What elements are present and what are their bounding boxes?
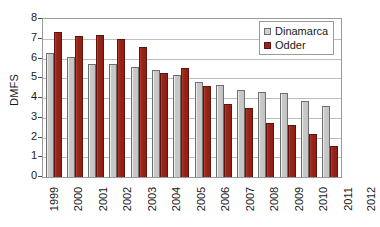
bar-odder-2004 bbox=[160, 73, 168, 177]
x-axis-tick-label: 2006 bbox=[220, 187, 232, 211]
x-axis-tick: 2003 bbox=[140, 179, 164, 227]
y-axis-tick-label: 1 bbox=[15, 149, 37, 161]
y-axis-tick-label: 8 bbox=[15, 11, 37, 23]
y-axis-tick-mark bbox=[38, 137, 42, 138]
bar-odder-2012 bbox=[330, 146, 338, 177]
x-axis-tick: 2000 bbox=[66, 179, 90, 227]
y-axis-tick-mark bbox=[38, 18, 42, 19]
bar-odder-2007 bbox=[224, 104, 232, 177]
bar-group bbox=[149, 19, 170, 177]
bar-odder-2002 bbox=[117, 39, 125, 177]
bar-odder-2010 bbox=[288, 125, 296, 177]
bar-odder-2011 bbox=[309, 134, 317, 177]
bar-dinamarca-2004 bbox=[152, 70, 160, 177]
y-axis-tick-mark bbox=[38, 38, 42, 39]
x-axis-tick: 2008 bbox=[262, 179, 286, 227]
y-axis-tick-mark bbox=[38, 58, 42, 59]
x-axis-tick: 2006 bbox=[213, 179, 237, 227]
x-axis-tick: 2002 bbox=[115, 179, 139, 227]
x-axis-tick-label: 2010 bbox=[318, 187, 330, 211]
bar-dinamarca-1999 bbox=[46, 53, 54, 177]
legend-label: Odder bbox=[275, 39, 306, 51]
x-axis-tick: 2001 bbox=[91, 179, 115, 227]
x-axis-tick-label: 2008 bbox=[269, 187, 281, 211]
bar-group bbox=[171, 19, 192, 177]
x-axis-tick-label: 2003 bbox=[146, 187, 158, 211]
x-axis-tick-label: 2000 bbox=[73, 187, 85, 211]
y-axis-tick-label: 5 bbox=[15, 70, 37, 82]
bar-odder-2000 bbox=[75, 36, 83, 177]
bar-odder-1999 bbox=[54, 32, 62, 177]
x-axis-tick-label: 2001 bbox=[97, 187, 109, 211]
legend-swatch-odder bbox=[264, 42, 271, 49]
x-axis-tick: 1999 bbox=[42, 179, 66, 227]
y-axis-tick-mark bbox=[38, 117, 42, 118]
y-axis-tick-label: 6 bbox=[15, 51, 37, 63]
bar-group bbox=[235, 19, 256, 177]
y-axis-tick-label: 7 bbox=[15, 31, 37, 43]
x-axis-tick-label: 2002 bbox=[122, 187, 134, 211]
bar-dinamarca-2001 bbox=[88, 64, 96, 177]
x-axis-tick-label: 2012 bbox=[366, 187, 378, 211]
y-axis-tick-mark bbox=[38, 77, 42, 78]
x-axis-tick-label: 2007 bbox=[244, 187, 256, 211]
bar-dinamarca-2002 bbox=[109, 64, 117, 177]
bar-dinamarca-2008 bbox=[237, 90, 245, 177]
y-axis-tick-mark bbox=[38, 176, 42, 177]
x-axis-tick: 2007 bbox=[238, 179, 262, 227]
bar-group bbox=[213, 19, 234, 177]
legend-item-odder: Odder bbox=[264, 39, 328, 51]
bar-odder-2003 bbox=[139, 47, 147, 177]
y-axis-tick-label: 4 bbox=[15, 90, 37, 102]
bar-dinamarca-2009 bbox=[258, 92, 266, 177]
legend-item-dinamarca: Dinamarca bbox=[264, 25, 328, 37]
y-axis-tick-mark bbox=[38, 156, 42, 157]
x-axis-tick-label: 2005 bbox=[195, 187, 207, 211]
bar-group bbox=[107, 19, 128, 177]
bar-group bbox=[64, 19, 85, 177]
x-axis-tick: 2010 bbox=[311, 179, 335, 227]
x-axis-tick-label: 2004 bbox=[171, 187, 183, 211]
bar-odder-2008 bbox=[245, 108, 253, 177]
x-axis-tick: 2004 bbox=[164, 179, 188, 227]
bar-odder-2006 bbox=[203, 86, 211, 177]
bar-dinamarca-2011 bbox=[301, 101, 309, 177]
y-axis-tick-label: 0 bbox=[15, 169, 37, 181]
y-axis-tick-mark bbox=[38, 97, 42, 98]
x-axis-tick: 2011 bbox=[336, 179, 360, 227]
x-axis-tick: 2009 bbox=[287, 179, 311, 227]
bar-dinamarca-2005 bbox=[173, 75, 181, 177]
bar-dinamarca-2006 bbox=[195, 82, 203, 177]
bar-odder-2009 bbox=[266, 123, 274, 177]
legend: DinamarcaOdder bbox=[259, 21, 334, 55]
bar-odder-2005 bbox=[181, 68, 189, 177]
bar-dinamarca-2000 bbox=[67, 57, 75, 177]
y-axis-tick-label: 2 bbox=[15, 130, 37, 142]
bar-group bbox=[43, 19, 64, 177]
bar-dinamarca-2012 bbox=[322, 106, 330, 177]
legend-label: Dinamarca bbox=[275, 25, 328, 37]
bar-group bbox=[192, 19, 213, 177]
bar-group bbox=[86, 19, 107, 177]
bar-group bbox=[128, 19, 149, 177]
x-axis-tick-label: 2009 bbox=[293, 187, 305, 211]
x-axis-tick-label: 2011 bbox=[342, 187, 354, 211]
bar-odder-2001 bbox=[96, 35, 104, 177]
x-axis-tick-label: 1999 bbox=[48, 187, 60, 211]
y-axis-tick-label: 3 bbox=[15, 110, 37, 122]
x-axis-tick: 2005 bbox=[189, 179, 213, 227]
x-axis: 1999200020012002200320042005200620072008… bbox=[42, 179, 342, 227]
legend-swatch-dinamarca bbox=[264, 28, 271, 35]
bar-dinamarca-2003 bbox=[131, 67, 139, 177]
bar-dinamarca-2010 bbox=[280, 93, 288, 177]
x-axis-tick: 2012 bbox=[359, 179, 380, 227]
bar-dinamarca-2007 bbox=[216, 85, 224, 177]
